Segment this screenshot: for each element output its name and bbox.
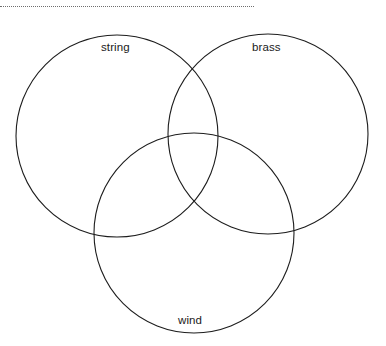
- venn-label-string: string: [101, 42, 130, 54]
- venn-diagram-page: string brass wind: [0, 0, 386, 346]
- venn-diagram-canvas: [0, 0, 386, 346]
- venn-circle-string[interactable]: [16, 35, 218, 237]
- venn-label-brass: brass: [252, 42, 281, 54]
- venn-label-wind: wind: [178, 315, 202, 327]
- venn-circle-brass[interactable]: [168, 34, 368, 234]
- venn-circle-wind[interactable]: [94, 133, 294, 333]
